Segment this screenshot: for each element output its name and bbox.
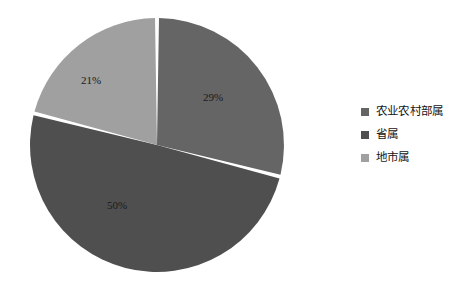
legend-swatch-icon-1 bbox=[361, 131, 369, 139]
legend-label-0: 农业农村部属 bbox=[376, 106, 443, 118]
pie-slice-value-label-1: 50% bbox=[107, 199, 127, 211]
pie-plot-area: 29%50%21% bbox=[0, 0, 330, 282]
pie-slice-group bbox=[30, 18, 284, 272]
legend-swatch-icon-0 bbox=[361, 108, 369, 116]
legend-item-1[interactable]: 省属 bbox=[361, 123, 471, 146]
pie-slice-value-label-0: 29% bbox=[203, 91, 223, 103]
pie-chart-figure: 29%50%21% 农业农村部属 省属 地市属 bbox=[0, 0, 471, 282]
legend-label-1: 省属 bbox=[376, 129, 398, 141]
chart-legend: 农业农村部属 省属 地市属 bbox=[361, 100, 471, 169]
legend-label-2: 地市属 bbox=[376, 152, 410, 164]
pie-svg: 29%50%21% bbox=[0, 0, 330, 282]
legend-swatch-icon-2 bbox=[361, 154, 369, 162]
legend-item-2[interactable]: 地市属 bbox=[361, 146, 471, 169]
legend-item-0[interactable]: 农业农村部属 bbox=[361, 100, 471, 123]
pie-slice-value-label-2: 21% bbox=[81, 74, 101, 86]
